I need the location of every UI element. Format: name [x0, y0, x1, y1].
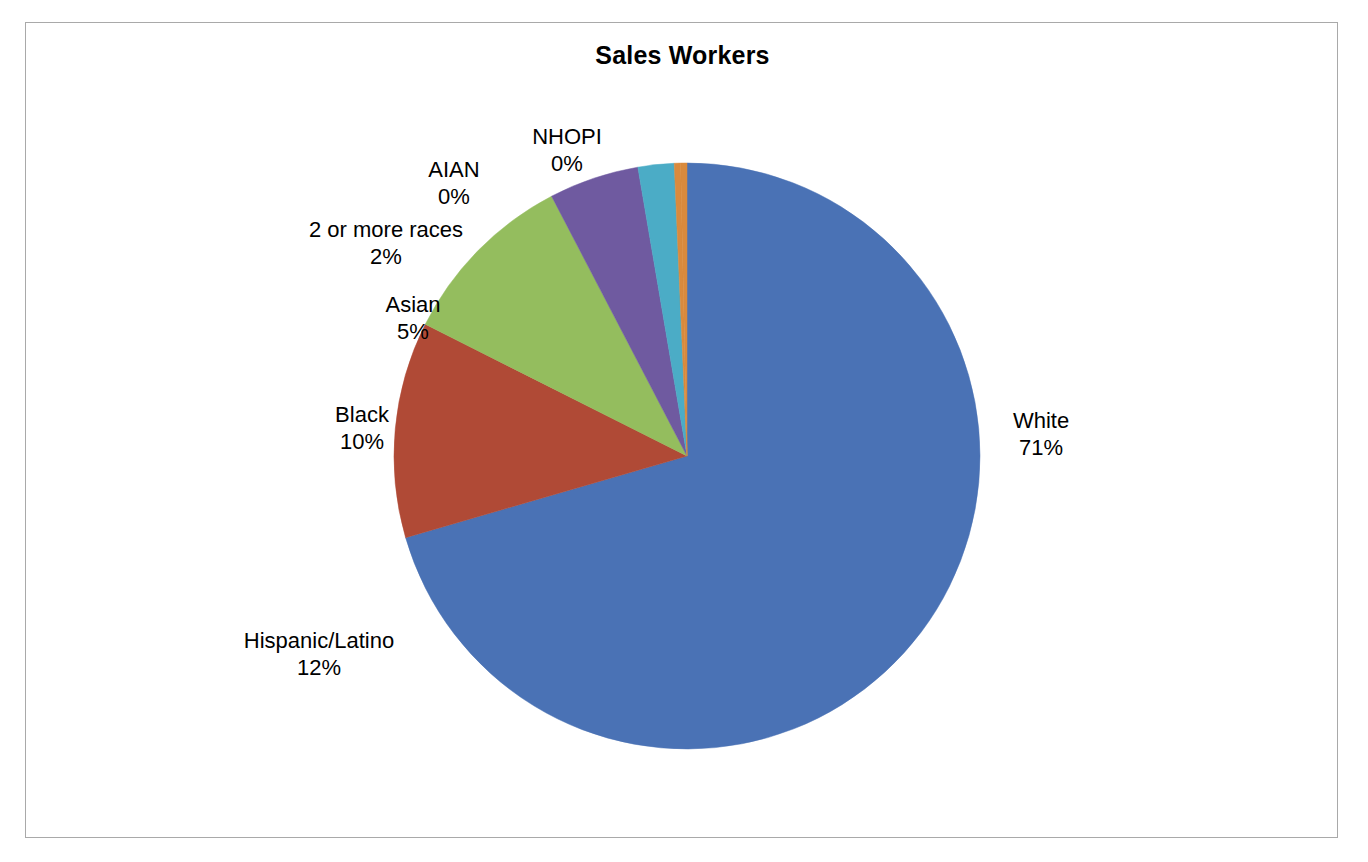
pie-label-black: Black 10% — [292, 401, 432, 455]
pie-plot-area: NHOPI 0% AIAN 0% 2 or more races 2% Asia… — [26, 23, 1339, 839]
pie-label-hispanic-latino-value: 12% — [199, 654, 439, 681]
pie-label-aian-name: AIAN — [384, 156, 524, 183]
pie-label-hispanic-latino: Hispanic/Latino 12% — [199, 627, 439, 681]
pie-label-black-name: Black — [292, 401, 432, 428]
pie-label-asian-name: Asian — [343, 291, 483, 318]
chart-frame: Sales Workers NHOPI 0% AIAN 0% 2 or more… — [25, 22, 1338, 838]
pie-label-white-value: 71% — [971, 434, 1111, 461]
pie-chart-svg — [26, 23, 1339, 839]
pie-label-two-or-more-races-name: 2 or more races — [281, 216, 491, 243]
pie-label-aian: AIAN 0% — [384, 156, 524, 210]
pie-label-black-value: 10% — [292, 428, 432, 455]
pie-label-hispanic-latino-name: Hispanic/Latino — [199, 627, 439, 654]
pie-label-asian: Asian 5% — [343, 291, 483, 345]
pie-label-white: White 71% — [971, 407, 1111, 461]
pie-label-aian-value: 0% — [384, 183, 524, 210]
pie-label-two-or-more-races: 2 or more races 2% — [281, 216, 491, 270]
pie-label-two-or-more-races-value: 2% — [281, 243, 491, 270]
pie-label-nhopi-name: NHOPI — [497, 123, 637, 150]
pie-label-white-name: White — [971, 407, 1111, 434]
pie-label-asian-value: 5% — [343, 318, 483, 345]
chart-figure: Sales Workers NHOPI 0% AIAN 0% 2 or more… — [0, 0, 1368, 862]
